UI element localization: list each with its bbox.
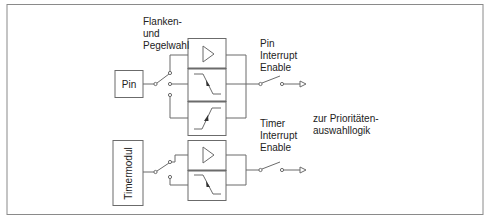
timer-level-buffer-cell <box>188 141 226 171</box>
pin-enable-switch <box>262 76 280 83</box>
level-buffer-cell <box>188 39 226 69</box>
buffer-triangle-icon <box>203 46 214 62</box>
label-line: Enable <box>260 62 297 74</box>
selector-switch-blade <box>157 74 169 83</box>
pin-block-label: Pin <box>115 71 143 98</box>
label-line: auswahllogik <box>313 125 379 137</box>
label-line: zur Prioritäten- <box>313 113 379 125</box>
label-line: Enable <box>260 142 297 154</box>
selector-switch-pivot <box>154 82 157 85</box>
label-line: Flanken- <box>143 16 189 28</box>
label-line: Interrupt <box>260 50 297 62</box>
pin-interrupt-enable-label: Pin Interrupt Enable <box>260 38 297 74</box>
label-line: Pegelwahl <box>143 40 189 52</box>
timer-buffer-triangle-icon <box>203 147 214 163</box>
timer-module-label-wrap: Timermodul <box>113 141 143 206</box>
pin-output-arrow-icon <box>300 81 306 87</box>
timer-interrupt-enable-label: Timer Interrupt Enable <box>260 118 297 154</box>
diagram-frame <box>7 5 483 215</box>
timer-enable-switch <box>262 162 280 169</box>
edge-level-select-label: Flanken- und Pegelwahl <box>143 16 189 52</box>
timer-output-arrow-icon <box>300 167 306 173</box>
block-diagram <box>0 0 488 219</box>
timer-module-label: Timermodul <box>123 147 134 199</box>
label-line: Pin <box>260 38 297 50</box>
priority-logic-label: zur Prioritäten- auswahllogik <box>313 113 379 137</box>
label-line: Interrupt <box>260 130 297 142</box>
label-line: und <box>143 28 189 40</box>
label-line: Timer <box>260 118 297 130</box>
